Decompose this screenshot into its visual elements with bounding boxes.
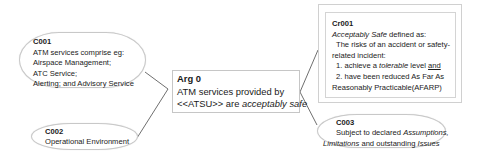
criterion-node-cr001[interactable]: Cr001 Acceptably Safe defined as: The ri…: [318, 4, 462, 103]
goal-line: <<ATSU>> are acceptably safe: [177, 98, 307, 111]
criterion-line: The risks of an accident or safety-: [332, 40, 450, 51]
criterion-content: Cr001 Acceptably Safe defined as: The ri…: [332, 19, 450, 93]
connector-arg0-c002: [137, 89, 168, 138]
criterion-emphasis: Acceptably Safe: [332, 30, 387, 39]
node-id: C001: [33, 37, 134, 48]
context-node-c003[interactable]: C003 Subject to declared Assumptions, Li…: [317, 114, 446, 148]
node-id: C002: [45, 127, 129, 137]
context-emphasis: Issues: [418, 139, 440, 148]
context-text: Subject to declared: [336, 128, 403, 137]
criterion-line: 1. achieve a tolerable level and: [332, 61, 450, 72]
context-emphasis: Assumptions,: [403, 128, 449, 137]
context-text: and outstanding: [359, 139, 417, 148]
context-node-c001[interactable]: C001 ATM services comprise eg: Airspace …: [19, 32, 146, 88]
criterion-text: defined as:: [387, 30, 426, 39]
criterion-underline: and: [428, 61, 441, 70]
context-line: ATM services comprise eg:: [33, 48, 134, 59]
context-line: ATC Service;: [33, 69, 134, 80]
criterion-text: level: [408, 61, 428, 70]
context-line: Operational Environment: [45, 137, 129, 147]
context-line: Alerting; and Advisory Service: [33, 79, 134, 90]
criterion-line: Acceptably Safe defined as:: [332, 30, 450, 41]
criterion-inner-border: Cr001 Acceptably Safe defined as: The ri…: [325, 12, 456, 98]
criterion-line: related incident:: [332, 51, 450, 62]
criterion-line: 2. have been reduced As Far As: [332, 72, 450, 83]
context-node-c002[interactable]: C002 Operational Environment: [31, 123, 138, 150]
goal-emphasis: acceptably safe: [242, 98, 307, 109]
connector-arg0-c001: [145, 72, 168, 89]
gsn-diagram: C001 ATM services comprise eg: Airspace …: [0, 0, 482, 165]
context-line: Subject to declared Assumptions,: [323, 128, 449, 138]
criterion-line: Reasonably Practicable(AFARP): [332, 83, 450, 94]
goal-content: Arg 0 ATM services provided by <<ATSU>> …: [177, 73, 307, 111]
goal-line: ATM services provided by: [177, 86, 307, 99]
goal-node-arg0[interactable]: Arg 0 ATM services provided by <<ATSU>> …: [172, 70, 300, 113]
goal-text: <<ATSU>> are: [177, 98, 242, 109]
context-emphasis: Limitations: [323, 139, 359, 148]
node-id: C003: [323, 118, 449, 128]
context-content: C002 Operational Environment: [45, 127, 129, 148]
criterion-emphasis: tolerable: [379, 61, 408, 70]
context-content: C001 ATM services comprise eg: Airspace …: [33, 37, 134, 90]
context-line: Airspace Management;: [33, 58, 134, 69]
node-id: Arg 0: [177, 73, 307, 86]
criterion-text: 1. achieve a: [336, 61, 379, 70]
context-line: Limitations and outstanding Issues: [323, 139, 449, 149]
context-content: C003 Subject to declared Assumptions, Li…: [323, 118, 449, 149]
node-id: Cr001: [332, 19, 450, 30]
